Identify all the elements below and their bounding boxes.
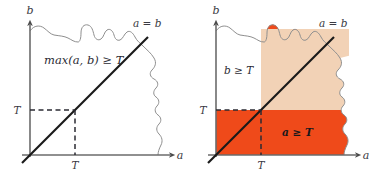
panel-left: T T b a a = b max(a, b) ≥ T xyxy=(0,0,186,173)
y-axis-label: b xyxy=(26,4,33,17)
a-ge-T-label: a ≥ T xyxy=(282,126,314,138)
y-tick-label-T: T xyxy=(13,104,21,116)
max-formula-label: max(a, b) ≥ T xyxy=(44,53,125,67)
panel-right: T T b a a = b b ≥ T a ≥ T xyxy=(186,0,372,173)
x-axis-label: a xyxy=(363,149,370,162)
y-axis-label: b xyxy=(212,4,219,17)
y-tick-label-T: T xyxy=(199,104,207,116)
diagonal-label: a = b xyxy=(319,17,348,29)
right-panel-canvas: T T b a a = b b ≥ T a ≥ T xyxy=(186,0,372,173)
x-tick-label-T: T xyxy=(71,159,79,171)
figure-root: T T b a a = b max(a, b) ≥ T xyxy=(0,0,372,173)
left-panel-canvas: T T b a a = b max(a, b) ≥ T xyxy=(0,0,186,173)
white-upper-left-clear xyxy=(186,0,261,110)
tan-region-solid-base xyxy=(261,48,349,110)
b-ge-T-label: b ≥ T xyxy=(224,64,254,76)
x-axis-label: a xyxy=(177,149,184,162)
diagonal-label: a = b xyxy=(133,17,162,29)
x-tick-label-T: T xyxy=(257,159,265,171)
